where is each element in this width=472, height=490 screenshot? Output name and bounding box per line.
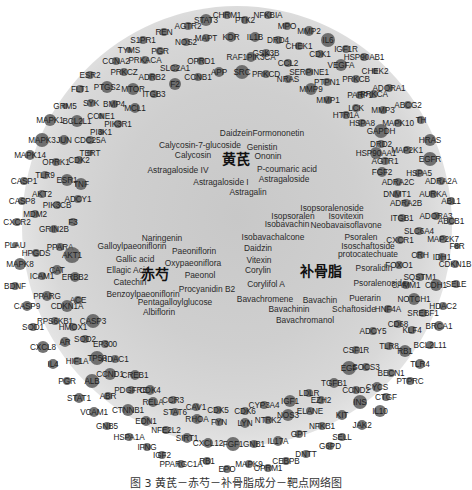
compound-label: DaidzeinFormononetin bbox=[220, 128, 304, 138]
target-label: MCL1 bbox=[124, 104, 145, 113]
target-label: BCL2L1 bbox=[63, 117, 92, 126]
target-label: CCND1 bbox=[96, 370, 124, 379]
target-label: CASP1 bbox=[11, 177, 37, 186]
target-label: MMP2 bbox=[297, 27, 320, 36]
target-label: CXCL12 bbox=[193, 439, 223, 448]
target-label: KDR bbox=[223, 33, 240, 42]
target-label: ELANE bbox=[297, 407, 323, 416]
target-label: HRAS bbox=[419, 136, 441, 145]
compound-label: Schaftoside bbox=[332, 304, 376, 314]
target-label: CXCL8 bbox=[30, 343, 56, 352]
target-label: AGTR2 bbox=[175, 22, 202, 31]
target-label: VCAM1 bbox=[80, 408, 108, 417]
target-label: ESR2 bbox=[80, 71, 101, 80]
target-label: CCNB1 bbox=[184, 73, 211, 82]
target-label: PRKCA bbox=[360, 90, 388, 99]
target-label: PPARGC1A bbox=[159, 460, 202, 469]
target-label: JUN bbox=[56, 136, 72, 145]
target-label: LYN bbox=[237, 419, 252, 428]
compound-label: protocatechuate bbox=[338, 249, 398, 259]
target-label: BMP4 bbox=[103, 100, 125, 109]
compound-label: Paeoniflorin bbox=[172, 246, 216, 256]
target-label: F3 bbox=[68, 218, 77, 227]
target-label: TYMS bbox=[118, 46, 140, 55]
compound-label: Paeonol bbox=[185, 270, 216, 280]
target-label: HMOX1 bbox=[59, 323, 88, 332]
target-label: FYN bbox=[211, 418, 227, 427]
target-label: VEGFA bbox=[328, 61, 355, 70]
target-label: CAV1 bbox=[186, 403, 206, 412]
compound-label: Isobavachalcone bbox=[242, 232, 305, 242]
target-label: G6PD bbox=[319, 442, 341, 451]
compound-label: Vitexin bbox=[247, 255, 272, 265]
target-label: AR bbox=[59, 338, 70, 347]
target-label: ADRB2 bbox=[139, 73, 166, 82]
target-label: TLR8 bbox=[379, 342, 399, 351]
target-label: SREBF1 bbox=[407, 309, 438, 318]
compound-label: Procyanidin B2 bbox=[179, 284, 235, 294]
target-label: DNMT1 bbox=[383, 190, 411, 199]
target-label: FGF1 bbox=[223, 440, 244, 449]
target-label: PGR bbox=[58, 377, 75, 386]
target-label: STAT1 bbox=[67, 394, 91, 403]
target-label: FGF2 bbox=[372, 168, 393, 177]
target-label: STAT6 bbox=[163, 408, 187, 417]
target-label: IGF2 bbox=[153, 451, 171, 460]
target-label: S1PR1 bbox=[130, 36, 155, 45]
target-label: GRIN2B bbox=[39, 225, 69, 234]
target-label: F2 bbox=[170, 80, 179, 89]
target-label: CYCS bbox=[366, 383, 388, 392]
target-label: CDKN1A bbox=[51, 302, 84, 311]
target-label: OPRK1 bbox=[42, 158, 69, 167]
compound-label: Pentagalloylglucose bbox=[138, 297, 213, 307]
target-label: MPO bbox=[278, 22, 296, 31]
target-label: PTK2 bbox=[235, 16, 255, 25]
target-label: SOD1 bbox=[22, 323, 44, 332]
target-label: CDH1 bbox=[425, 281, 447, 290]
target-label: INS bbox=[353, 398, 366, 407]
target-label: IL17A bbox=[268, 437, 289, 446]
target-label: RHOA bbox=[185, 415, 208, 424]
target-label: SLC2A1 bbox=[160, 64, 190, 73]
target-label: RB1 bbox=[397, 347, 413, 356]
target-label: IGF1 bbox=[281, 397, 299, 406]
compound-label: Bavachromene bbox=[237, 294, 293, 304]
target-label: ADRA2A bbox=[425, 177, 457, 186]
target-label: TH bbox=[416, 116, 427, 125]
target-label: GRM5 bbox=[53, 102, 76, 111]
target-label: NOTCH1 bbox=[397, 295, 430, 304]
target-label: IL10 bbox=[372, 407, 388, 416]
target-label: SRC bbox=[234, 68, 251, 77]
target-label: HIF1A bbox=[66, 357, 89, 366]
target-label: CXCR2 bbox=[3, 218, 30, 227]
target-label: MMP1 bbox=[316, 96, 339, 105]
target-label: PRKCB bbox=[342, 75, 370, 84]
target-label: CCL2 bbox=[278, 59, 299, 68]
target-label: APP bbox=[211, 68, 227, 77]
target-label: BDNF bbox=[4, 282, 26, 291]
target-label: CDC25A bbox=[74, 136, 106, 145]
target-label: ICAM1 bbox=[30, 272, 55, 281]
target-label: RELA bbox=[143, 398, 164, 407]
compound-label: Ononin bbox=[254, 151, 281, 161]
target-label: ABCG2 bbox=[394, 101, 421, 110]
target-label: PGR bbox=[151, 47, 168, 56]
target-label: IL4 bbox=[47, 360, 58, 369]
target-label: PPARG bbox=[33, 292, 61, 301]
target-label: AKT1 bbox=[62, 251, 82, 260]
target-label: ABCB1 bbox=[438, 217, 464, 226]
compound-label: Astragaloside bbox=[259, 174, 310, 184]
compound-label: Oxypaeoniflora bbox=[165, 258, 221, 268]
target-label: PTGS2 bbox=[94, 83, 120, 92]
target-label: MMP9 bbox=[299, 85, 322, 94]
target-label: TLR9 bbox=[35, 171, 55, 180]
target-label: PRKCZ bbox=[110, 68, 137, 77]
compound-label: P-coumaric acid bbox=[257, 164, 317, 174]
target-label: CCNA2 bbox=[102, 57, 129, 66]
target-label: KIT bbox=[336, 411, 348, 420]
compound-label: Bavachinin bbox=[269, 304, 310, 314]
target-label: ABR bbox=[100, 392, 117, 401]
compound-label: Isobavachin bbox=[265, 219, 310, 229]
target-label: ADCY5 bbox=[360, 327, 387, 336]
